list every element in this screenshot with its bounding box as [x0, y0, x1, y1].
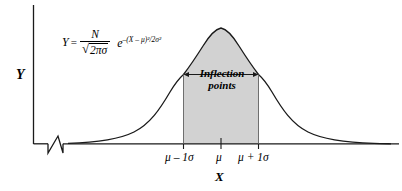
equation-exponential: e–(X – μ)²/2σ²	[117, 36, 161, 49]
equation-exponent: –(X – μ)²/2σ²	[123, 35, 162, 44]
x-tick-label-mu: μ	[216, 152, 222, 164]
normal-distribution-figure: Y X μ – 1σ μ μ + 1σ Inflection points Y …	[0, 0, 402, 191]
x-tick-label-mu-plus-sigma: μ + 1σ	[238, 152, 269, 164]
equation-lhs: Y	[62, 36, 69, 48]
x-tick-label-mu-minus-sigma: μ – 1σ	[165, 152, 194, 164]
distribution-plot	[0, 0, 402, 191]
axis-break-zigzag-icon	[48, 136, 63, 153]
inflection-label-line2: points	[188, 80, 256, 92]
equation-radicand: 2πσ	[89, 43, 108, 57]
equation-denominator: √2πσ	[80, 42, 110, 57]
inflection-points-annotation: Inflection points	[188, 68, 256, 92]
equation-fraction: N √2πσ	[80, 28, 110, 57]
normal-distribution-equation: Y = N √2πσ e–(X – μ)²/2σ²	[62, 28, 161, 57]
radical-icon: √	[82, 42, 89, 55]
x-axis-title: X	[215, 170, 224, 183]
inflection-label-line1: Inflection	[200, 67, 245, 79]
equation-numerator: N	[88, 28, 102, 41]
equation-equals-sign: =	[71, 37, 77, 48]
y-axis-title: Y	[16, 68, 25, 82]
